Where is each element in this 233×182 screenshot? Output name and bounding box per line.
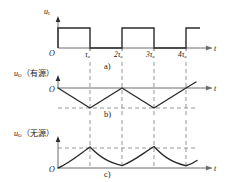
panel-b-y-arrow <box>56 75 61 81</box>
panel-a-x-arrow <box>206 46 212 51</box>
waveform-figure: uI O τₐ 2τₐ 3τₐ 4τₐ t a) uO（有源） O t b) u… <box>0 0 233 182</box>
panel-a-tick-label-4: 4τₐ <box>178 51 187 59</box>
panel-a-tick-label-1: τₐ <box>85 51 90 59</box>
panel-a-tick-label-2: 2τₐ <box>114 51 123 59</box>
panel-b-x-axis-label: t <box>214 85 216 93</box>
panel-a-tick-label-3: 3τₐ <box>146 51 155 59</box>
waveform-svg <box>0 0 233 182</box>
panel-a-x-axis-label: t <box>214 45 216 53</box>
panel-b-signal-label: uO（有源） <box>14 70 54 79</box>
panel-c-caption: c) <box>104 170 111 179</box>
panel-a-signal-label: uI <box>44 8 50 17</box>
panel-a-signal-sub: I <box>48 11 50 16</box>
panel-b-triangular-wave <box>58 82 196 108</box>
panel-c-origin-label: O <box>49 166 55 174</box>
panel-c-x-axis-label: t <box>214 165 216 173</box>
panel-c-graphics <box>56 120 212 170</box>
panel-c-signal-label: uO（无源） <box>14 130 54 139</box>
panel-a-origin-label: O <box>49 50 55 58</box>
panel-c-x-arrow <box>206 166 212 171</box>
panel-a-y-arrow <box>56 16 61 22</box>
panel-a-caption: a) <box>104 62 111 71</box>
panel-b-origin-label: O <box>49 86 55 94</box>
panel-b-signal-paren: （有源） <box>22 69 54 78</box>
panel-b-graphics <box>56 62 212 117</box>
panel-a-graphics <box>56 16 212 51</box>
panel-a-square-wave <box>58 28 200 48</box>
panel-b-caption: b) <box>104 110 111 119</box>
panel-c-exponential-curve <box>58 147 197 169</box>
panel-c-y-arrow <box>56 136 61 142</box>
panel-c-signal-paren: （无源） <box>22 129 54 138</box>
panel-b-x-arrow <box>206 86 212 91</box>
